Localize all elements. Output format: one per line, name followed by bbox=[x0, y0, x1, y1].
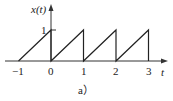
x-tick-label-neg1: −1 bbox=[12, 66, 24, 77]
x-tick-label-1: 1 bbox=[81, 66, 87, 77]
x-axis-label: t bbox=[161, 67, 164, 78]
y-axis-label: x(t) bbox=[31, 4, 46, 15]
x-tick-label-3: 3 bbox=[146, 66, 152, 77]
x-axis-arrow-icon bbox=[161, 59, 168, 64]
x-tick-label-0: 0 bbox=[48, 66, 54, 77]
sawtooth-series bbox=[19, 30, 149, 61]
figure-caption: a） bbox=[78, 85, 94, 96]
y-axis-arrow-icon bbox=[49, 4, 54, 11]
x-tick-label-2: 2 bbox=[113, 66, 119, 77]
y-tick-label-1: 1 bbox=[41, 25, 47, 36]
